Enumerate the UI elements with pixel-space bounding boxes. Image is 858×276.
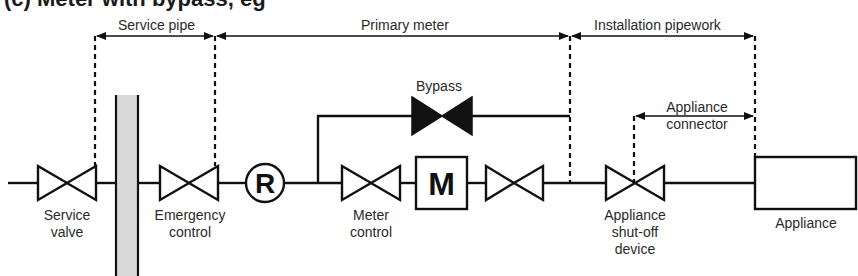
meter-control-label-line2: control — [336, 224, 406, 241]
meter-control-label: Meter control — [336, 207, 406, 241]
regulator-symbol: R — [246, 164, 284, 202]
service-pipe-label: Service pipe — [118, 17, 195, 34]
appliance-shutoff-label-line2: shut-off — [595, 224, 675, 241]
appliance-shutoff-label-line1: Appliance — [595, 207, 675, 224]
regulator-letter: R — [255, 168, 275, 199]
dimension-arrows — [97, 36, 753, 116]
emergency-control-label-line2: control — [145, 224, 235, 241]
appliance-label: Appliance — [766, 215, 846, 232]
emergency-control-label: Emergency control — [145, 207, 235, 241]
emergency-control-valve-symbol — [160, 166, 218, 200]
primary-meter-label: Primary meter — [361, 17, 449, 34]
service-valve-label-line1: Service — [32, 207, 102, 224]
appliance-box — [755, 157, 856, 209]
bypass-label: Bypass — [416, 78, 462, 95]
service-valve-label: Service valve — [32, 207, 102, 241]
meter-symbol: M — [416, 157, 467, 209]
appliance-shutoff-label: Appliance shut-off device — [595, 207, 675, 258]
meter-letter: M — [428, 166, 455, 202]
appliance-connector-line2: connector — [659, 116, 735, 133]
appliance-connector-line1: Appliance — [659, 99, 735, 116]
appliance-shutoff-label-line3: device — [595, 241, 675, 258]
service-valve-symbol — [38, 166, 96, 200]
meter-control-label-line1: Meter — [336, 207, 406, 224]
gas-meter-bypass-diagram: R M — [0, 0, 858, 276]
meter-outlet-valve-symbol — [486, 166, 543, 200]
installation-pipework-label: Installation pipework — [594, 17, 721, 34]
service-valve-label-line2: valve — [32, 224, 102, 241]
appliance-connector-label: Appliance connector — [659, 99, 735, 133]
bypass-valve-symbol — [412, 97, 472, 135]
emergency-control-label-line1: Emergency — [145, 207, 235, 224]
meter-control-valve-symbol — [342, 166, 400, 200]
wall — [116, 95, 138, 276]
